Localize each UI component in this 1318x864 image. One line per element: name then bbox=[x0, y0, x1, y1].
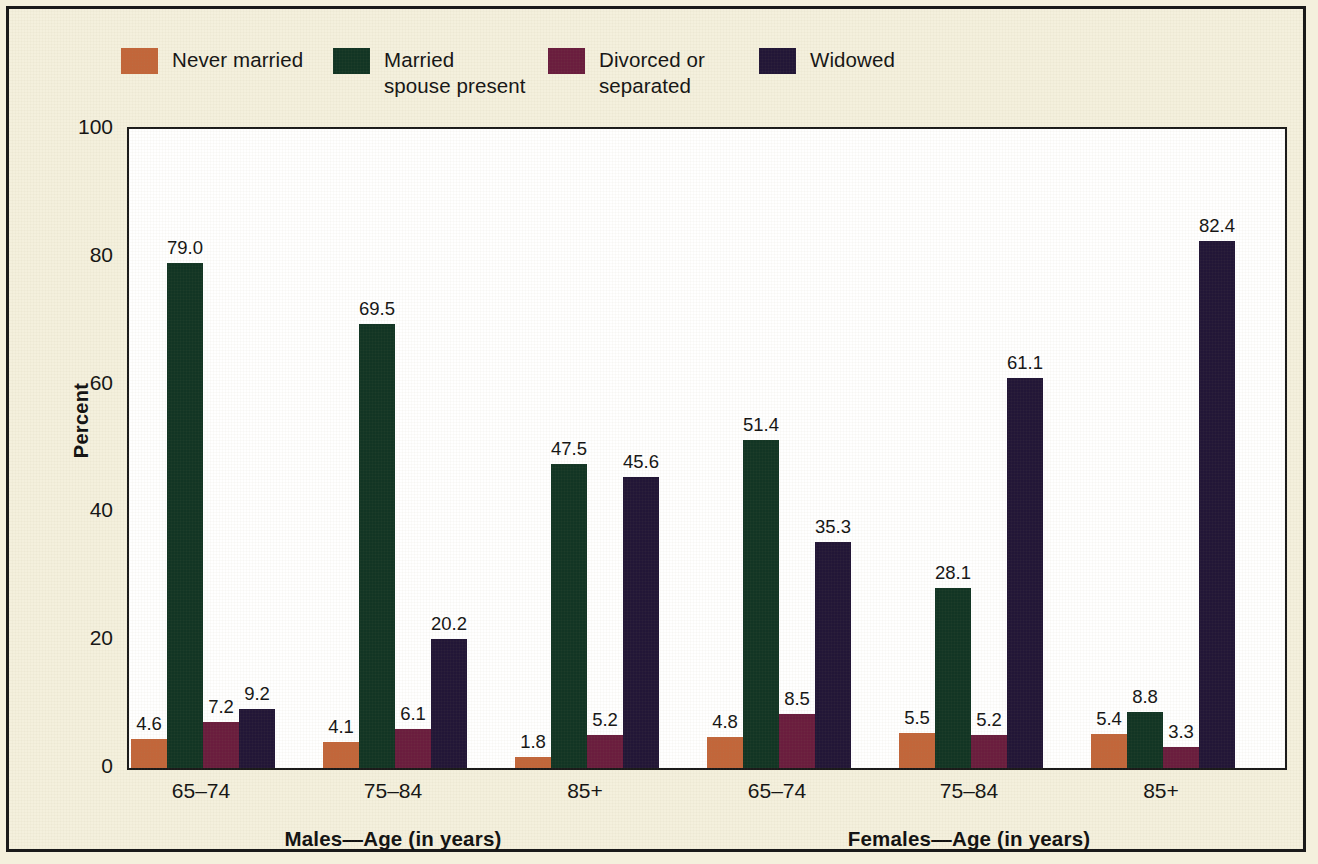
bar-value-label: 5.2 bbox=[592, 709, 618, 731]
bar: 4.1 bbox=[323, 742, 359, 768]
bar-value-label: 6.1 bbox=[400, 703, 426, 725]
plot-area: 4.679.07.29.24.169.56.120.21.847.55.245.… bbox=[127, 127, 1287, 770]
y-tick-label: 20 bbox=[51, 626, 113, 650]
x-panel-label-males: Males—Age (in years) bbox=[284, 827, 501, 851]
bar: 4.8 bbox=[707, 737, 743, 768]
x-group-label: 65–74 bbox=[748, 779, 806, 803]
bars-layer: 4.679.07.29.24.169.56.120.21.847.55.245.… bbox=[129, 129, 1285, 768]
chart-legend: Never married Married spouse present Div… bbox=[121, 47, 1121, 109]
y-tick-label: 100 bbox=[51, 115, 113, 139]
bar-value-label: 4.6 bbox=[136, 713, 162, 735]
bar-value-label: 79.0 bbox=[167, 237, 203, 259]
legend-label-divorced-or-separated: Divorced or separated bbox=[599, 47, 705, 99]
bar: 4.6 bbox=[131, 739, 167, 768]
bar: 7.2 bbox=[203, 722, 239, 768]
legend-item-divorced-or-separated: Divorced or separated bbox=[548, 47, 705, 99]
bar-value-label: 82.4 bbox=[1199, 215, 1235, 237]
x-group-label: 75–84 bbox=[940, 779, 998, 803]
legend-item-widowed: Widowed bbox=[759, 47, 895, 74]
bar-value-label: 5.4 bbox=[1096, 708, 1122, 730]
bar-value-label: 51.4 bbox=[743, 414, 779, 436]
legend-item-married-spouse-present: Married spouse present bbox=[333, 47, 526, 99]
bar-value-label: 69.5 bbox=[359, 298, 395, 320]
bar: 61.1 bbox=[1007, 378, 1043, 768]
bar-value-label: 45.6 bbox=[623, 451, 659, 473]
bar: 35.3 bbox=[815, 542, 851, 768]
bar: 47.5 bbox=[551, 464, 587, 768]
bar-value-label: 47.5 bbox=[551, 438, 587, 460]
bar: 5.4 bbox=[1091, 734, 1127, 769]
bar-value-label: 5.2 bbox=[976, 709, 1002, 731]
legend-label-married-spouse-present: Married spouse present bbox=[384, 47, 526, 99]
bar: 8.5 bbox=[779, 714, 815, 768]
x-panel-label-females: Females—Age (in years) bbox=[848, 827, 1091, 851]
legend-swatch-married-spouse-present bbox=[333, 48, 370, 74]
legend-swatch-never-married bbox=[121, 48, 158, 74]
figure-root: Never married Married spouse present Div… bbox=[0, 0, 1318, 864]
bar: 20.2 bbox=[431, 639, 467, 768]
bar-value-label: 61.1 bbox=[1007, 352, 1043, 374]
bar: 45.6 bbox=[623, 477, 659, 768]
x-group-label: 75–84 bbox=[364, 779, 422, 803]
bar-value-label: 20.2 bbox=[431, 613, 467, 635]
y-tick-label: 80 bbox=[51, 243, 113, 267]
bar-value-label: 5.5 bbox=[904, 707, 930, 729]
figure-border: Never married Married spouse present Div… bbox=[6, 6, 1306, 852]
x-group-label: 85+ bbox=[567, 779, 603, 803]
bar: 51.4 bbox=[743, 440, 779, 768]
legend-item-never-married: Never married bbox=[121, 47, 303, 74]
bar: 5.2 bbox=[971, 735, 1007, 768]
bar: 3.3 bbox=[1163, 747, 1199, 768]
y-axis-title: Percent bbox=[70, 341, 93, 501]
bar-value-label: 7.2 bbox=[208, 696, 234, 718]
legend-swatch-widowed bbox=[759, 48, 796, 74]
x-group-label: 85+ bbox=[1143, 779, 1179, 803]
bar: 5.5 bbox=[899, 733, 935, 768]
legend-label-never-married: Never married bbox=[172, 47, 303, 73]
legend-label-widowed: Widowed bbox=[810, 47, 895, 73]
y-tick-label: 60 bbox=[51, 371, 113, 395]
bar-value-label: 8.8 bbox=[1132, 686, 1158, 708]
x-group-label: 65–74 bbox=[172, 779, 230, 803]
bar: 82.4 bbox=[1199, 241, 1235, 768]
bar: 9.2 bbox=[239, 709, 275, 768]
bar: 8.8 bbox=[1127, 712, 1163, 768]
bar-value-label: 9.2 bbox=[244, 683, 270, 705]
bar-value-label: 28.1 bbox=[935, 562, 971, 584]
bar: 79.0 bbox=[167, 263, 203, 768]
bar-value-label: 3.3 bbox=[1168, 721, 1194, 743]
bar: 28.1 bbox=[935, 588, 971, 768]
bar-value-label: 4.8 bbox=[712, 711, 738, 733]
bar: 69.5 bbox=[359, 324, 395, 768]
bar-value-label: 35.3 bbox=[815, 516, 851, 538]
bar: 5.2 bbox=[587, 735, 623, 768]
bar: 1.8 bbox=[515, 757, 551, 769]
bar: 6.1 bbox=[395, 729, 431, 768]
bar-value-label: 1.8 bbox=[520, 731, 546, 753]
y-tick-label: 0 bbox=[51, 754, 113, 778]
legend-swatch-divorced-or-separated bbox=[548, 48, 585, 74]
y-tick-label: 40 bbox=[51, 498, 113, 522]
bar-value-label: 8.5 bbox=[784, 688, 810, 710]
bar-value-label: 4.1 bbox=[328, 716, 354, 738]
